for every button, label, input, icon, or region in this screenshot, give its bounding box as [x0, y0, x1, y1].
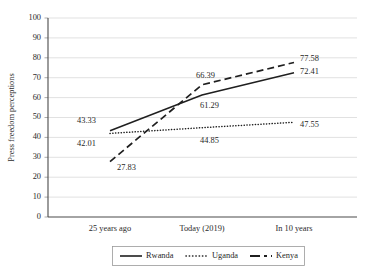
data-label-uganda-2: 47.55 [300, 120, 319, 129]
data-label-rwanda-1: 61.29 [200, 101, 219, 110]
data-label-kenya-0: 27.83 [117, 163, 136, 172]
y-tick-label-10: 10 [33, 192, 41, 201]
y-tick-label-100: 100 [28, 13, 41, 22]
data-label-uganda-0: 42.01 [77, 139, 96, 148]
x-tick-label-0: 25 years ago [89, 224, 131, 233]
data-label-kenya-2: 77.58 [300, 54, 319, 63]
y-tick-label-50: 50 [33, 112, 41, 121]
y-tick-label-40: 40 [33, 132, 41, 141]
legend-label-rwanda: Rwanda [146, 251, 174, 260]
legend-label-kenya: Kenya [276, 251, 298, 260]
x-tick-label-2: In 10 years [275, 224, 312, 233]
legend: Rwanda Uganda Kenya [113, 247, 305, 266]
x-tick-label-1: Today (2019) [179, 224, 224, 233]
y-tick-label-60: 60 [33, 93, 41, 102]
chart-canvas: 100 90 80 70 60 50 40 30 20 10 0 Press f… [0, 0, 373, 274]
legend-label-uganda: Uganda [212, 251, 238, 260]
y-tick-label-30: 30 [33, 152, 41, 161]
y-axis-title: Press freedom perceptions [7, 73, 16, 161]
data-label-rwanda-0: 43.33 [77, 116, 96, 125]
data-label-uganda-1: 44.85 [200, 136, 219, 145]
y-tick-label-90: 90 [33, 33, 41, 42]
data-label-rwanda-2: 72.41 [300, 67, 319, 76]
y-tick-label-20: 20 [33, 172, 41, 181]
y-tick-label-0: 0 [37, 212, 41, 221]
line-chart: 100 90 80 70 60 50 40 30 20 10 0 Press f… [0, 0, 373, 274]
y-tick-label-70: 70 [33, 73, 41, 82]
data-label-kenya-1: 66.39 [196, 71, 215, 80]
y-tick-label-80: 80 [33, 53, 41, 62]
